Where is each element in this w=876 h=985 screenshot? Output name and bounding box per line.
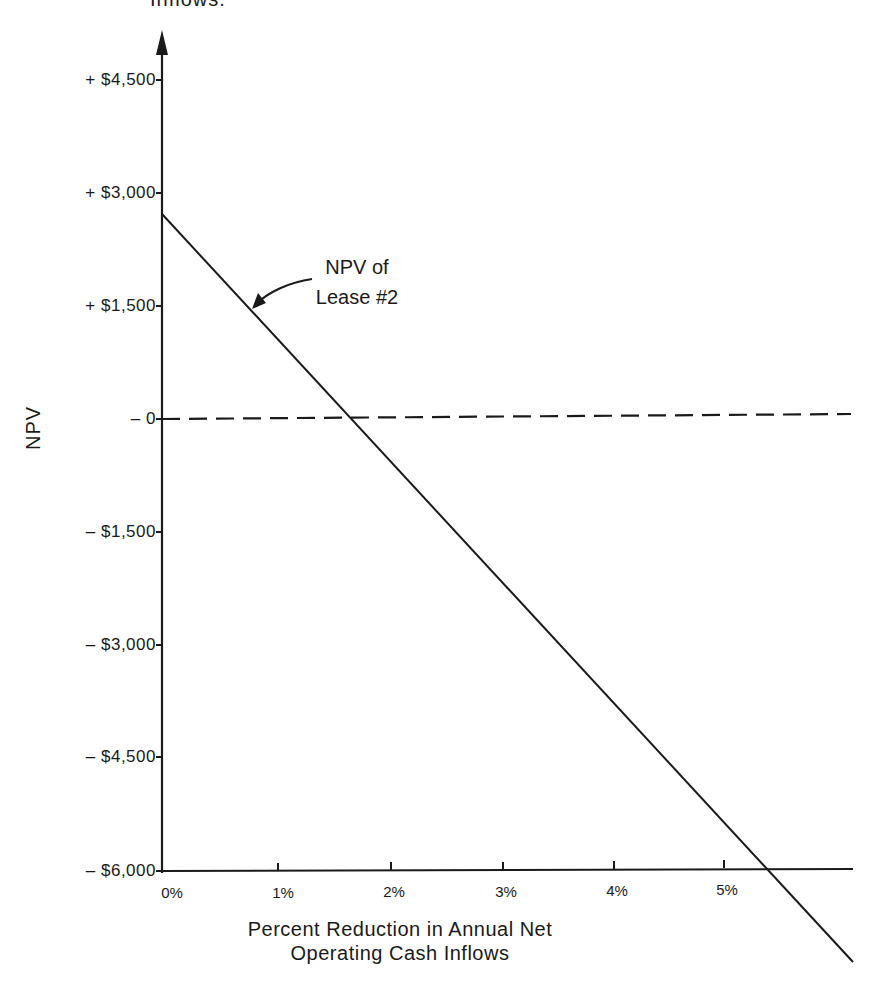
zero-reference-line bbox=[162, 414, 851, 419]
y-tick-label: + $4,500 bbox=[0, 70, 156, 90]
x-tick-label: 5% bbox=[707, 881, 747, 898]
y-tick-label: + $3,000 bbox=[0, 183, 156, 203]
x-tick-label: 2% bbox=[374, 883, 414, 900]
x-axis bbox=[162, 869, 853, 871]
y-tick-label: – $3,000 bbox=[0, 635, 156, 655]
x-tick-label: 4% bbox=[597, 882, 637, 899]
y-tick-label: – $6,000 bbox=[0, 861, 156, 881]
x-tick-label: 3% bbox=[486, 883, 526, 900]
y-tick-label: – $4,500 bbox=[0, 747, 156, 767]
y-tick-label: – $1,500 bbox=[0, 522, 156, 542]
x-axis-label-line1: Percent Reduction in Annual Net bbox=[200, 917, 600, 941]
y-axis-arrow-icon bbox=[156, 30, 168, 55]
x-axis-label-line2: Operating Cash Inflows bbox=[200, 941, 600, 965]
annotation-line1: NPV of bbox=[302, 252, 412, 282]
x-tick-label: 1% bbox=[263, 884, 303, 901]
chart-canvas bbox=[0, 0, 876, 985]
series-annotation: NPV of Lease #2 bbox=[302, 252, 412, 312]
annotation-arrowhead-icon bbox=[252, 293, 266, 309]
annotation-line2: Lease #2 bbox=[302, 282, 412, 312]
npv-lease-2-line bbox=[162, 214, 853, 962]
x-tick-label: 0% bbox=[152, 884, 192, 901]
x-axis-label: Percent Reduction in Annual Net Operatin… bbox=[200, 917, 600, 965]
y-tick-label: + $1,500 bbox=[0, 296, 156, 316]
y-axis-label: NPV bbox=[22, 406, 45, 450]
